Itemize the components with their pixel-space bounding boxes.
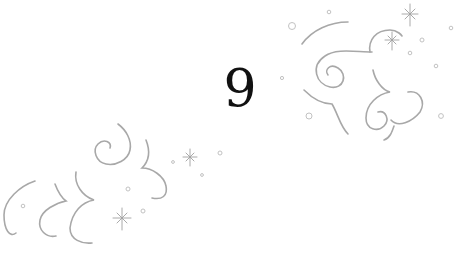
sparkle-icon bbox=[183, 149, 197, 166]
number-card: 9 bbox=[0, 0, 475, 267]
decorative-ornaments bbox=[0, 0, 475, 267]
sparkle-icon bbox=[402, 4, 418, 26]
swirl-cloud-bottom-left-icon bbox=[4, 124, 166, 243]
sparkle-icon bbox=[113, 208, 131, 230]
numeral-nine: 9 bbox=[220, 58, 260, 118]
sparkle-icon bbox=[385, 32, 399, 50]
swirl-cloud-top-right-icon bbox=[302, 22, 422, 140]
